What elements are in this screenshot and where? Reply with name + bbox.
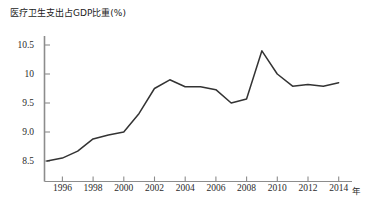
x-axis-label-1998: 1998 [76,183,110,193]
x-axis-label-2000: 2000 [107,183,141,193]
x-axis-label-2014: 2014 [322,183,356,193]
y-axis-label-9-5: 9.5 [8,98,34,108]
x-axis-label-2008: 2008 [230,183,264,193]
x-axis-label-2010: 2010 [260,183,294,193]
x-axis-label-2006: 2006 [199,183,233,193]
x-axis-label-1996: 1996 [45,183,79,193]
x-axis-label-2004: 2004 [168,183,202,193]
x-axis-label-2012: 2012 [291,183,325,193]
x-axis-ticks [62,177,338,182]
chart-plot-area [0,0,366,198]
y-axis-label-9-0: 9.0 [8,127,34,137]
y-axis-label-10-5: 10.5 [8,40,34,50]
data-series-line [47,51,339,161]
y-axis-ticks [45,45,51,161]
y-axis-label-8-5: 8.5 [8,156,34,166]
x-axis-label-2002: 2002 [138,183,172,193]
x-axis-title: 年 [352,184,361,196]
y-axis-label-10: 10 [8,69,34,79]
chart-figure: 医疗卫生支出占GDP比重(%) 10 [0,0,366,198]
